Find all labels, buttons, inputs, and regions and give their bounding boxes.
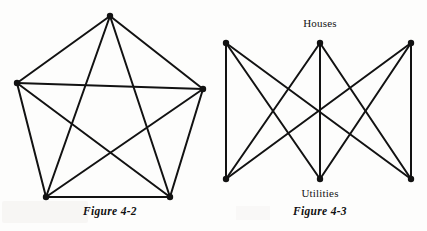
k33-vertex: [223, 176, 229, 182]
k5-edge: [46, 16, 110, 197]
k5-edge: [17, 83, 46, 197]
k33-edge-group: [226, 43, 411, 179]
k5-edge: [110, 16, 170, 197]
houses-label: Houses: [272, 17, 368, 29]
k5-vertex: [14, 80, 20, 86]
k5-edge: [46, 89, 203, 197]
k33-vertex: [223, 40, 229, 46]
figure-4-3-caption: Figure 4-3: [268, 205, 372, 217]
k33-vertex: [408, 176, 414, 182]
figure-4-2-caption: Figure 4-2: [60, 205, 160, 217]
k33-vertex: [408, 40, 414, 46]
k5-edge: [110, 16, 203, 89]
figure-page: Houses Utilities Figure 4-2 Figure 4-3: [0, 0, 427, 231]
k5-vertex: [107, 13, 113, 19]
k33-vertex: [317, 176, 323, 182]
k5-edge-group: [17, 16, 203, 197]
k5-vertex: [167, 194, 173, 200]
k5-edge: [17, 83, 203, 89]
k5-vertex: [43, 194, 49, 200]
k5-vertex: [200, 86, 206, 92]
k5-edge: [170, 89, 203, 197]
k5-edge: [17, 16, 110, 83]
k5-edge: [17, 83, 170, 197]
utilities-label: Utilities: [272, 187, 368, 199]
k33-vertex: [317, 40, 323, 46]
